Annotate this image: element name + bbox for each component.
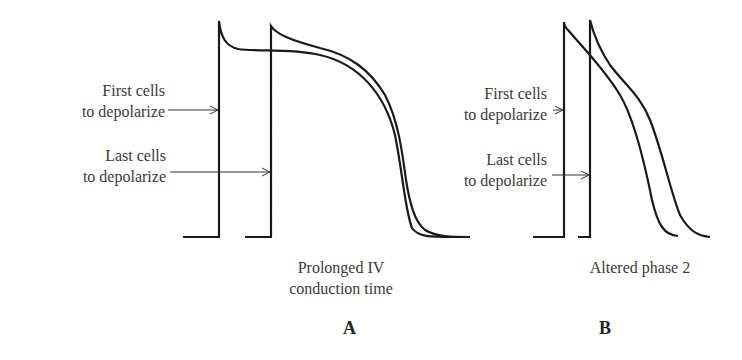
panel-b-last-cells-curve	[578, 20, 710, 237]
label-first-cells-a: First cells to depolarize	[82, 80, 165, 122]
label-line: First cells	[464, 83, 547, 104]
panel-letter-a: A	[343, 318, 356, 339]
label-line: First cells	[82, 80, 165, 101]
label-line: to depolarize	[464, 104, 547, 125]
panel-a-last-cells-curve	[245, 26, 470, 237]
label-line: to depolarize	[464, 170, 547, 191]
label-line: Last cells	[83, 145, 166, 166]
label-first-cells-b: First cells to depolarize	[464, 83, 547, 125]
caption-line: Altered phase 2	[540, 257, 740, 278]
label-line: to depolarize	[82, 101, 165, 122]
panel-letter-b: B	[599, 318, 611, 339]
panel-a-first-cells-curve	[183, 21, 470, 237]
label-last-cells-a: Last cells to depolarize	[83, 145, 166, 187]
panel-b-first-cells-curve	[533, 22, 678, 237]
label-line: Last cells	[464, 149, 547, 170]
label-last-cells-b: Last cells to depolarize	[464, 149, 547, 191]
caption-line: Prolonged IV	[266, 257, 416, 278]
caption-panel-b: Altered phase 2	[540, 257, 740, 278]
caption-panel-a: Prolonged IV conduction time	[266, 257, 416, 299]
label-line: to depolarize	[83, 166, 166, 187]
caption-line: conduction time	[266, 278, 416, 299]
